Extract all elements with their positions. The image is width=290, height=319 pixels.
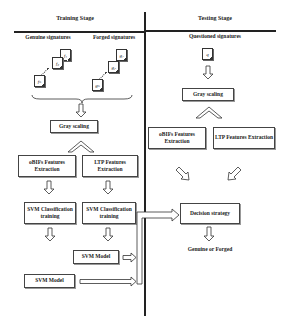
- down-arrow-icon: [45, 228, 55, 242]
- training-gray-scaling-box: Gray scaling: [50, 120, 98, 133]
- training-obifs-extraction-box: oBIFs Features Extraction: [18, 155, 76, 177]
- svm-training-box-2: SVM Classification training: [82, 202, 136, 224]
- questioned-signatures-label: Questioned signatures: [170, 33, 260, 39]
- svm-model-box-1: SVM Model: [24, 274, 75, 288]
- down-arrow-icon: [204, 227, 214, 242]
- testing-obifs-extraction-box: oBIFs Features Extraction: [148, 127, 206, 149]
- testing-stage-title: Testing Stage: [165, 15, 265, 21]
- testing-header-divider: [146, 30, 276, 32]
- split-arrow-icon: [196, 106, 222, 118]
- training-header-divider: [14, 31, 144, 33]
- right-arrow-icon: [80, 277, 137, 286]
- genuine-doc-icon: fₙ: [34, 75, 45, 87]
- testing-gray-scaling-box: Gray scaling: [182, 88, 234, 101]
- forged-doc-icon: g₂: [108, 61, 119, 73]
- down-arrow-icon: [103, 228, 113, 242]
- questioned-doc-icon: q: [202, 48, 213, 60]
- diagonal-down-right-arrow-icon: [176, 167, 190, 181]
- training-ltp-extraction-box: LTP Features Extraction: [82, 155, 138, 177]
- decision-strategy-box: Decision strategy: [180, 203, 240, 224]
- svm-training-box-1: SVM Classification training: [24, 202, 76, 224]
- right-arrow-icon: [123, 253, 137, 262]
- diagonal-down-left-arrow-icon: [227, 167, 241, 181]
- down-arrow-icon: [76, 104, 86, 118]
- outcome-label: Genuine or Forged: [180, 246, 240, 252]
- down-arrow-icon: [203, 66, 213, 80]
- forged-signatures-label: Forged signatures: [86, 34, 142, 40]
- down-arrow-icon: [44, 181, 54, 195]
- svm-model-box-2: SVM Model: [73, 250, 119, 264]
- merge-connector: [137, 212, 182, 284]
- forged-doc-icon: gₙ: [92, 79, 103, 91]
- down-arrow-icon: [103, 181, 113, 195]
- genuine-signatures-label: Genuine signatures: [18, 34, 78, 40]
- grouping-brace: [32, 94, 132, 104]
- genuine-doc-icon: f₂: [52, 57, 63, 69]
- forged-doc-icon: g₁: [116, 49, 127, 61]
- training-stage-title: Training Stage: [30, 15, 120, 21]
- split-arrow-icon: [68, 140, 94, 152]
- testing-ltp-extraction-box: LTP Features Extraction: [213, 127, 275, 149]
